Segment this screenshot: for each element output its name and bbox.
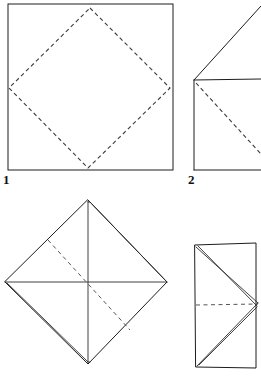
step-3-inner-edge-top bbox=[88, 202, 167, 282]
step-2-rectangle-outline bbox=[194, 79, 261, 170]
step-2-diagonal-crease bbox=[196, 83, 261, 154]
step-3-diagonal-fold-crease bbox=[48, 240, 130, 330]
step-2-figure bbox=[194, 6, 261, 170]
step-2-number-label: 2 bbox=[188, 173, 195, 186]
step-2-folded-flap-edge bbox=[194, 6, 261, 80]
diagram-canvas: 1 2 bbox=[0, 0, 261, 376]
step-4-lower-flap-edge-a bbox=[197, 303, 258, 366]
step-1-diamond-crease bbox=[9, 8, 170, 168]
step-4-upper-flap-edge-b bbox=[198, 246, 257, 306]
step-4-figure bbox=[195, 243, 258, 368]
step-1-number-label: 1 bbox=[3, 173, 10, 186]
step-4-rectangle-outline bbox=[195, 243, 256, 368]
step-4-lower-flap-edge-b bbox=[199, 307, 257, 365]
step-4-horizontal-crease bbox=[196, 304, 258, 305]
step-3-inner-edge-bottom bbox=[7, 283, 90, 362]
origami-steps-svg bbox=[0, 0, 261, 376]
step-1-figure bbox=[8, 4, 173, 170]
step-3-figure bbox=[5, 200, 167, 364]
step-1-square-outline bbox=[8, 4, 173, 170]
